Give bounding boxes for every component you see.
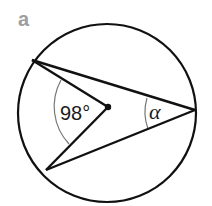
- inscribed-angle-label: α: [149, 99, 161, 124]
- circle-diagram: 98° α: [0, 0, 212, 206]
- chord-top: [32, 60, 195, 110]
- circle: [18, 24, 196, 202]
- central-angle-label: 98°: [60, 102, 90, 124]
- inscribed-angle-arc: [145, 98, 148, 129]
- radius-top: [32, 60, 108, 107]
- center-point: [105, 104, 111, 110]
